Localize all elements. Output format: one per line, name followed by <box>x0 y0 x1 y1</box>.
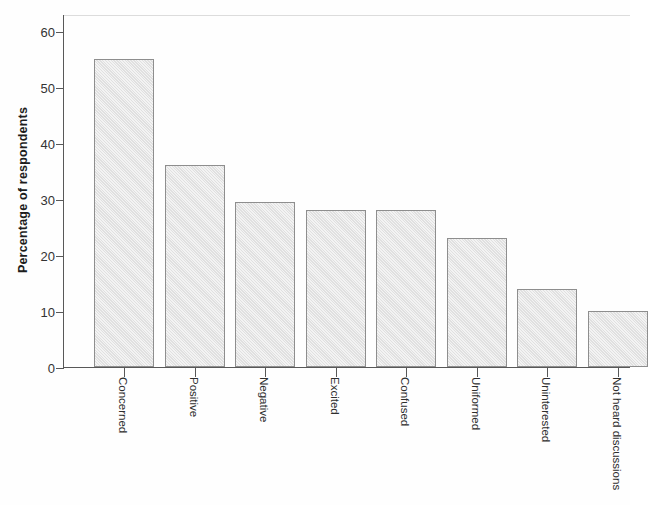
x-axis-tick-label: Not heard discussions <box>611 377 623 490</box>
x-axis-tick-label: Confused <box>399 377 411 426</box>
x-axis-tick-label: Positive <box>188 377 200 417</box>
x-axis-tick-label: Concerned <box>117 377 129 433</box>
x-axis-tick-label: Uninterested <box>540 377 552 442</box>
x-axis-tick-label: Negative <box>258 377 270 422</box>
x-axis-tick-label: Uniformed <box>470 377 482 430</box>
x-axis-tick-label: Excited <box>329 377 341 415</box>
